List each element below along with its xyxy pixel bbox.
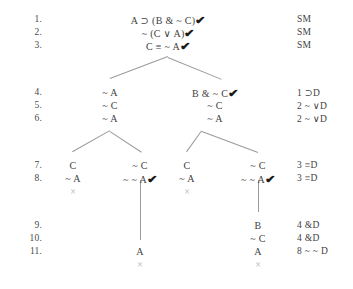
formula-text: ~ C	[102, 100, 117, 111]
checkmark-icon: ✔	[180, 40, 191, 53]
tree-vertical-line	[140, 180, 141, 240]
justification-text: 2 ~ ∨D	[297, 113, 327, 124]
formula-text: ~ A	[102, 87, 117, 98]
tree-node-formula: A	[254, 246, 262, 257]
formula-text: A	[136, 246, 144, 257]
formula-text: ~ C	[250, 160, 265, 171]
tree-node-formula: A ⊃ (B & ~ C)✔	[131, 14, 205, 27]
branch-closed-x-icon: ×	[137, 259, 143, 270]
tree-node-formula: ~ A	[179, 173, 194, 184]
formula-text: ~ C	[207, 100, 222, 111]
line-number: 5.	[18, 100, 42, 110]
tree-node-formula: ~ C	[250, 233, 265, 244]
line-number: 2.	[18, 27, 42, 37]
justification-text: 4 &D	[297, 220, 320, 230]
line-number: 11.	[18, 246, 42, 256]
justification-text: 3 ≡D	[297, 160, 318, 170]
tree-node-formula: ~ C	[207, 100, 222, 111]
tree-branch-line	[110, 56, 168, 79]
tree-node-formula: ~ (C ∨ A)✔	[142, 27, 195, 40]
tree-branch-line	[73, 130, 110, 152]
tree-node-formula: ~ C	[250, 160, 265, 171]
truth-tree-diagram: 1.2.3.4.5.6.7.8.9.10.11.A ⊃ (B & ~ C)✔~ …	[0, 0, 353, 289]
justification-text: 2 ~ ∨D	[297, 100, 327, 111]
formula-text: B & ~ C	[192, 88, 228, 99]
line-number: 4.	[18, 87, 42, 97]
tree-node-formula: C	[70, 160, 77, 171]
checkmark-icon: ✔	[265, 173, 276, 186]
tree-node-formula: ~ ~ A✔	[241, 173, 275, 186]
tree-node-formula: C ≡ ~ A✔	[146, 40, 190, 53]
formula-text: ~ C	[250, 233, 265, 244]
tree-node-formula: ~ C	[132, 160, 147, 171]
tree-branch-line	[168, 57, 222, 80]
tree-node-formula: ~ A	[65, 173, 80, 184]
line-number: 6.	[18, 113, 42, 123]
line-number: 9.	[18, 220, 42, 230]
formula-text: A ⊃ (B & ~ C)	[131, 15, 196, 26]
justification-text: SM	[297, 40, 311, 50]
tree-branch-line	[109, 131, 142, 153]
line-number: 3.	[18, 40, 42, 50]
formula-text: ~ ~ A	[241, 174, 265, 185]
formula-text: ~ C	[132, 160, 147, 171]
tree-node-formula: B	[255, 220, 262, 231]
justification-text: 8 ~ ~ D	[297, 246, 328, 256]
formula-text: ~ A	[102, 113, 117, 124]
formula-text: B	[255, 220, 262, 231]
line-number: 7.	[18, 160, 42, 170]
tree-node-formula: ~ ~ A✔	[123, 173, 157, 186]
justification-text: SM	[297, 14, 311, 24]
formula-text: C	[184, 160, 191, 171]
branch-closed-x-icon: ×	[70, 186, 76, 197]
tree-node-formula: ~ C	[102, 100, 117, 111]
tree-node-formula: A	[136, 246, 144, 257]
tree-node-formula: ~ A	[102, 87, 117, 98]
tree-branch-line	[202, 131, 258, 153]
formula-text: ~ (C ∨ A)	[142, 28, 185, 39]
justification-text: 1 ⊃D	[297, 87, 320, 98]
line-number: 1.	[18, 14, 42, 24]
formula-text: ~ A	[179, 173, 194, 184]
checkmark-icon: ✔	[184, 27, 195, 40]
tree-node-formula: C	[184, 160, 191, 171]
formula-text: ~ ~ A	[123, 174, 147, 185]
justification-text: 4 &D	[297, 233, 320, 243]
formula-text: A	[254, 246, 262, 257]
line-number: 10.	[18, 233, 42, 243]
checkmark-icon: ✔	[147, 173, 158, 186]
checkmark-icon: ✔	[195, 14, 206, 27]
formula-text: C	[70, 160, 77, 171]
tree-branch-line	[186, 130, 202, 152]
branch-closed-x-icon: ×	[255, 259, 261, 270]
tree-node-formula: ~ A	[102, 113, 117, 124]
tree-node-formula: B & ~ C✔	[192, 87, 238, 100]
formula-text: C ≡ ~ A	[146, 41, 180, 52]
line-number: 8.	[18, 173, 42, 183]
tree-node-formula: ~ A	[207, 113, 222, 124]
branch-closed-x-icon: ×	[184, 186, 190, 197]
justification-text: 3 ≡D	[297, 173, 318, 183]
formula-text: ~ A	[207, 113, 222, 124]
formula-text: ~ A	[65, 173, 80, 184]
justification-text: SM	[297, 27, 311, 37]
checkmark-icon: ✔	[228, 87, 239, 100]
